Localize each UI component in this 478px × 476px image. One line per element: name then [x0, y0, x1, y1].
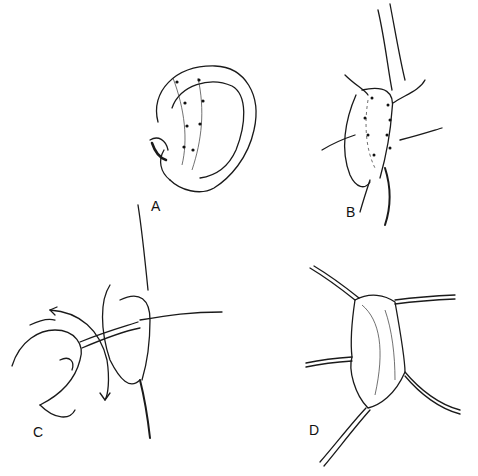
figure: A B C D — [0, 0, 478, 476]
illustration — [0, 0, 478, 476]
panel-label-d: D — [309, 422, 319, 438]
panel-label-b: B — [346, 204, 355, 220]
panel-a-ear-drawing — [150, 66, 256, 192]
panel-c-drawing — [12, 205, 222, 438]
panel-b-drawing — [322, 4, 442, 225]
panel-d-drawing — [306, 266, 460, 466]
panel-label-a: A — [151, 198, 160, 214]
panel-label-c: C — [33, 424, 43, 440]
